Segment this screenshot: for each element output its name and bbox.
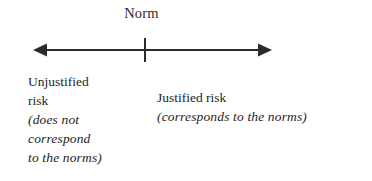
diagram-canvas: Norm Unjustified risk (does not correspo…: [0, 0, 372, 181]
justified-risk-annotation: Justified risk (corresponds to the norms…: [157, 88, 307, 126]
unjustified-risk-annotation: Unjustified risk (does not correspond to…: [28, 72, 102, 167]
justified-risk-line-1: Justified risk: [157, 88, 307, 107]
unjustified-risk-line-2: risk: [28, 91, 102, 110]
arrow-right-icon: [258, 44, 272, 57]
unjustified-risk-detail-line-2: correspond: [28, 129, 102, 148]
arrow-left-icon: [33, 44, 47, 57]
unjustified-risk-detail-line-1: (does not: [28, 110, 102, 129]
justified-risk-detail-line-1: (corresponds to the norms): [157, 107, 307, 126]
unjustified-risk-detail-line-3: to the norms): [28, 148, 102, 167]
unjustified-risk-line-1: Unjustified: [28, 72, 102, 91]
norm-axis-label: Norm: [0, 5, 283, 22]
